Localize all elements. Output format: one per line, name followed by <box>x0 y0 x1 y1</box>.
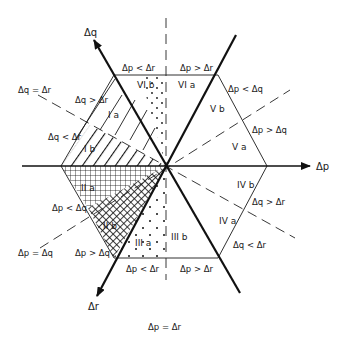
dr-axis-label: Δr <box>88 301 100 312</box>
edge-label-bottom-left: Δp < Δr <box>126 264 160 274</box>
edge-label-top-right: Δp > Δr <box>180 63 214 73</box>
edge-label-upper-left-top: Δq > Δr <box>75 95 109 105</box>
edge-label-bottom-right: Δp > Δr <box>180 264 214 274</box>
region-label-Ib: I b <box>84 144 96 154</box>
region-label-Ia: I a <box>108 110 119 120</box>
dp-eq-dr-label: Δp = Δr <box>148 322 182 332</box>
edge-label-lower-left-bottom: Δp > Δq <box>75 248 110 258</box>
edge-label-top-left: Δp < Δr <box>122 63 156 73</box>
region-label-IIb: II b <box>103 221 117 231</box>
dp-eq-dq-label: Δp = Δq <box>18 248 53 258</box>
region-label-IVb: IV b <box>237 180 255 190</box>
region-label-Vb: V b <box>210 104 225 114</box>
edge-label-lower-right-top: Δq > Δr <box>252 197 286 207</box>
dq-axis-label: Δq <box>84 27 97 38</box>
dp-axis-label: Δp <box>316 161 329 172</box>
sextant-diagram: Δq Δp Δr Δq = Δr Δp = Δq Δp = Δr Δp < Δr… <box>0 0 350 347</box>
region-label-IIa: II a <box>81 183 95 193</box>
dq-eq-dr-label: Δq = Δr <box>18 85 52 95</box>
region-label-VIa: VI a <box>178 80 195 90</box>
edge-label-lower-right-bottom: Δq < Δr <box>233 240 267 250</box>
region-label-IIIb: III b <box>171 232 188 242</box>
edge-label-lower-left-top: Δp < Δq <box>52 203 87 213</box>
region-label-IVa: IV a <box>219 216 236 226</box>
region-label-VIb: VI b <box>137 80 155 90</box>
edge-label-upper-right-bottom: Δp > Δq <box>252 125 287 135</box>
region-label-IIIa: III a <box>135 238 151 248</box>
edge-label-upper-right-top: Δp < Δq <box>228 84 263 94</box>
region-label-Va: V a <box>232 142 247 152</box>
edge-label-upper-left-bottom: Δq < Δr <box>48 132 82 142</box>
